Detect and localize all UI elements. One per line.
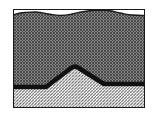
cross-section-diagram: geologic-cross-section Schematic cross s… [0, 0, 157, 122]
figure-root: geologic-cross-section Schematic cross s… [0, 0, 157, 122]
